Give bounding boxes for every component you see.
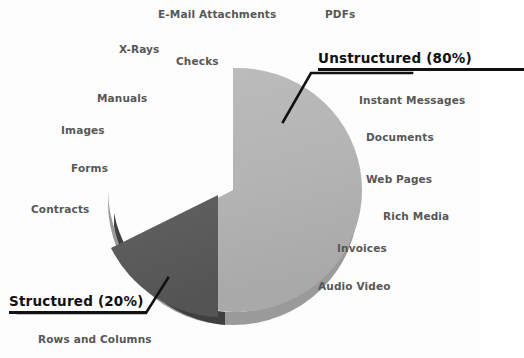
callout-unstructured-label: Unstructured (80%) [318,50,472,66]
label-contracts: Contracts [31,204,90,215]
callout-unstructured: Unstructured (80%) [318,52,524,71]
label-images: Images [61,125,105,136]
label-instant-messages: Instant Messages [359,95,465,106]
callout-underline [318,68,524,71]
label-rich-media: Rich Media [383,211,449,222]
label-xrays: X-Rays [119,44,159,55]
label-email-attachments: E-Mail Attachments [158,9,276,20]
label-manuals: Manuals [97,93,147,104]
label-documents: Documents [366,132,434,143]
label-rows-and-columns: Rows and Columns [38,334,152,345]
label-audio-video: Audio Video [318,281,391,292]
callout-structured-label: Structured (20%) [9,293,144,309]
callout-structured: Structured (20%) [9,295,146,314]
label-forms: Forms [71,163,108,174]
callout-underline [9,311,146,314]
label-checks: Checks [176,56,219,67]
label-pdfs: PDFs [325,9,355,20]
label-web-pages: Web Pages [366,174,432,185]
label-invoices: Invoices [337,243,387,254]
